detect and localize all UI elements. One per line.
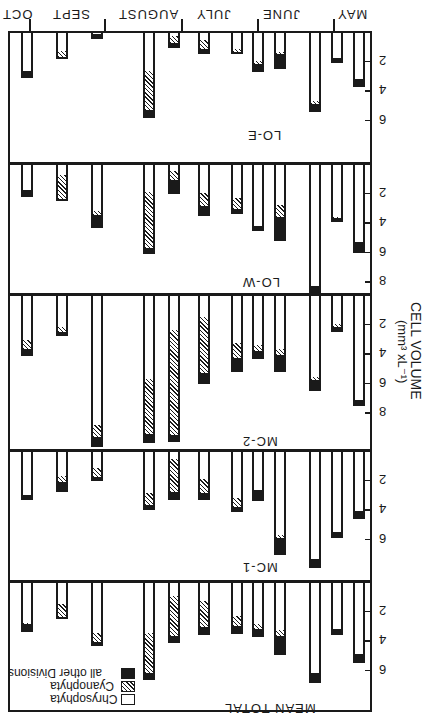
legend-label-other: all other Divisions <box>8 666 102 680</box>
bar-segment-other <box>333 218 341 219</box>
y-tick-label: 2 <box>379 185 386 200</box>
bar-segment-chrysophyta <box>58 583 66 604</box>
bar-segment-chrysophyta <box>93 452 101 468</box>
bar-segment-chrysophyta <box>276 165 284 205</box>
bar-segment-other <box>276 217 284 239</box>
bar-segment-chrysophyta <box>23 165 31 190</box>
bar-segment-chrysophyta <box>93 583 101 633</box>
y-tick <box>365 324 372 326</box>
bar-august <box>168 583 180 643</box>
y-tick-label: 6 <box>379 531 386 546</box>
y-tick <box>365 61 372 63</box>
bar-segment-other <box>93 34 101 37</box>
bar-july <box>198 583 210 635</box>
bar-segment-other <box>233 507 241 510</box>
bar-segment-chrysophyta <box>145 165 153 192</box>
bar-segment-cyanophyta <box>23 340 31 349</box>
bar-segment-other <box>276 636 284 652</box>
bar-segment-chrysophyta <box>355 296 363 400</box>
bar-june <box>274 165 286 241</box>
bar-segment-other <box>276 355 284 370</box>
y-tick <box>365 252 372 254</box>
bar-july <box>198 165 210 216</box>
bar-june <box>274 296 286 372</box>
bar-segment-chrysophyta <box>58 165 66 175</box>
bar-may <box>331 33 343 63</box>
bar-segment-other <box>170 636 178 640</box>
bar-segment-chrysophyta <box>355 583 363 654</box>
bar-segment-other <box>145 505 153 508</box>
y-tick <box>365 412 372 414</box>
bar-segment-chrysophyta <box>233 33 241 49</box>
bar-segment-chrysophyta <box>254 165 262 226</box>
y-tick-label: 2 <box>379 603 386 618</box>
bar-segment-cyanophyta <box>58 51 66 57</box>
bar-segment-other <box>355 242 363 251</box>
bar-segment-cyanophyta <box>145 379 153 434</box>
panel-label: LO-E <box>247 128 281 143</box>
bar-july <box>231 583 243 634</box>
bar-sept <box>56 583 68 619</box>
bar-segment-other <box>23 624 31 630</box>
bar-segment-chrysophyta <box>58 296 66 327</box>
bar-oct <box>21 296 33 356</box>
y-tick <box>365 480 372 482</box>
y-tick <box>365 670 372 672</box>
bar-segment-other <box>200 206 208 213</box>
bar-segment-cyanophyta <box>58 604 66 617</box>
bar-july <box>231 165 243 214</box>
bar-oct <box>21 452 33 500</box>
y-tick-label: 6 <box>379 244 386 259</box>
bar-august <box>143 165 155 254</box>
bar-oct <box>21 33 33 78</box>
bar-segment-cyanophyta <box>170 459 178 492</box>
bar-sept <box>91 452 103 481</box>
bar-segment-chrysophyta <box>200 33 208 40</box>
bar-segment-cyanophyta <box>233 198 241 210</box>
bar-segment-chrysophyta <box>333 165 341 217</box>
bar-may <box>353 33 365 87</box>
bar-segment-chrysophyta <box>233 165 241 198</box>
y-tick <box>365 120 372 122</box>
y-tick-label: 2 <box>379 472 386 487</box>
bar-segment-chrysophyta <box>170 296 178 330</box>
bar-segment-chrysophyta <box>200 296 208 317</box>
y-tick <box>365 509 372 511</box>
bar-segment-chrysophyta <box>145 583 153 633</box>
bar-segment-cyanophyta <box>93 633 101 642</box>
bar-segment-other <box>276 54 284 67</box>
bar-segment-chrysophyta <box>355 33 363 79</box>
month-label-august: AUGUST <box>118 7 178 22</box>
bar-segment-cyanophyta <box>145 192 153 248</box>
y-tick-label: 2 <box>379 316 386 331</box>
bar-august <box>143 33 155 118</box>
legend-swatch-hatched <box>121 681 135 692</box>
bar-segment-chrysophyta <box>145 296 153 379</box>
y-tick <box>365 539 372 541</box>
bar-sept <box>91 165 103 228</box>
bar-segment-other <box>200 49 208 52</box>
y-tick-label: 6 <box>379 662 386 677</box>
bar-segment-cyanophyta <box>170 596 178 636</box>
bar-segment-cyanophyta <box>93 425 101 437</box>
y-tick <box>365 611 372 613</box>
bar-segment-chrysophyta <box>233 296 241 343</box>
bar-segment-other <box>311 104 319 110</box>
bar-segment-chrysophyta <box>333 452 341 532</box>
bar-may <box>331 583 343 635</box>
bar-segment-other <box>233 209 241 212</box>
bar-segment-cyanophyta <box>170 330 178 435</box>
bar-segment-other <box>200 627 208 633</box>
bar-june <box>309 583 321 683</box>
bar-segment-other <box>355 400 363 404</box>
bar-july <box>252 296 264 359</box>
bar-may <box>353 583 365 663</box>
bar-june <box>309 165 321 294</box>
bar-segment-chrysophyta <box>58 452 66 476</box>
bar-july <box>231 33 243 54</box>
bar-segment-other <box>233 358 241 370</box>
y-axis-title-line2: (mm³ xL⁻¹) <box>395 320 410 383</box>
bar-segment-chrysophyta <box>276 296 284 349</box>
panel-label: MC-2 <box>242 434 278 449</box>
